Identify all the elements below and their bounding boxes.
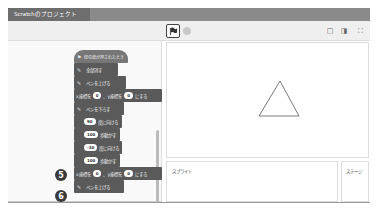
y-input[interactable]: 0 bbox=[124, 170, 133, 177]
sprite-panel[interactable]: スプライト bbox=[166, 161, 338, 202]
pen-icon: ✎ bbox=[77, 184, 81, 190]
clear-block[interactable]: ✎ 全部消す bbox=[74, 63, 118, 76]
flag-icon: ⚑ bbox=[77, 54, 81, 60]
steps-input[interactable]: 100 bbox=[84, 131, 98, 138]
when-flag-clicked-block[interactable]: ⚑ 緑の旗が押されたとき bbox=[74, 50, 128, 63]
stop-button[interactable] bbox=[183, 27, 191, 35]
scratch-editor: Scratchのプロジェクト □ ◨ ⛶ ⚑ 緑の旗が押されたとき ✎ 全部消す… bbox=[0, 0, 379, 214]
go-to-xy-block[interactable]: x座標を 0 、y座標を 0 にする bbox=[74, 167, 162, 180]
project-title-tab[interactable]: Scratchのプロジェクト bbox=[8, 8, 90, 21]
stage-panel-label: ステージ bbox=[346, 168, 362, 174]
x-input[interactable]: 0 bbox=[93, 170, 102, 177]
pen-down-block[interactable]: ✎ ペンを下ろす bbox=[74, 102, 124, 115]
pen-icon: ✎ bbox=[77, 106, 81, 112]
move-steps-block[interactable]: 100 歩動かす bbox=[74, 128, 120, 141]
green-flag-icon bbox=[169, 27, 178, 36]
point-direction-block[interactable]: 90 度に向ける bbox=[74, 115, 122, 128]
y-input[interactable]: 0 bbox=[124, 92, 133, 99]
steps-input[interactable]: 100 bbox=[84, 157, 98, 164]
sprite-panel-label: スプライト bbox=[172, 168, 192, 174]
move-steps-block[interactable]: 100 歩動かす bbox=[74, 154, 120, 167]
point-direction-block[interactable]: -30 度に向ける bbox=[74, 141, 122, 154]
x-input[interactable]: 0 bbox=[93, 92, 102, 99]
small-stage-icon[interactable]: □ bbox=[325, 27, 335, 35]
step-marker-6: 6 bbox=[55, 190, 67, 202]
direction-input[interactable]: -30 bbox=[84, 144, 97, 151]
pen-icon: ✎ bbox=[77, 67, 81, 73]
pen-up-block[interactable]: ✎ ペンを上げる bbox=[74, 76, 126, 89]
divider bbox=[8, 202, 370, 203]
pen-up-block[interactable]: ✎ ペンを上げる bbox=[74, 180, 124, 193]
go-to-xy-block[interactable]: x座標を 0 、y座標を 0 にする bbox=[74, 89, 162, 102]
fullscreen-icon[interactable]: ⛶ bbox=[355, 27, 365, 35]
stage-canvas[interactable] bbox=[166, 42, 369, 158]
normal-stage-icon[interactable]: ◨ bbox=[339, 27, 349, 35]
step-marker-5: 5 bbox=[55, 169, 67, 181]
green-flag-button[interactable] bbox=[166, 24, 180, 38]
code-scrollbar[interactable] bbox=[156, 130, 159, 202]
direction-input[interactable]: 90 bbox=[84, 118, 96, 125]
pen-icon: ✎ bbox=[77, 80, 81, 86]
stage-selector-panel[interactable]: ステージ bbox=[341, 161, 369, 202]
triangle-drawing bbox=[167, 43, 370, 159]
